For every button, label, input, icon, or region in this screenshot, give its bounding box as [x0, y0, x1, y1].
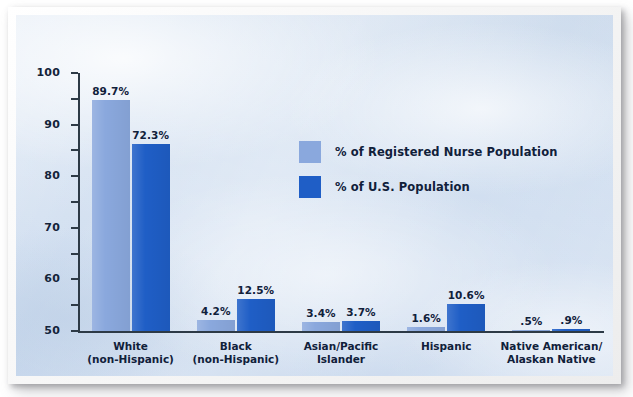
legend-item-us-population: % of U.S. Population — [299, 174, 557, 200]
x-axis-category-label: Asian/PacificIslander — [304, 340, 379, 366]
bar-value-label: 4.2% — [201, 305, 231, 317]
y-axis-tick-label: 80 — [44, 169, 60, 182]
y-axis-tick-label: 50 — [44, 324, 60, 337]
y-axis-tick: 100 — [71, 72, 78, 74]
bar-group: 4.2%12.5%Black(non-Hispanic) — [183, 73, 288, 331]
bar-value-label: 1.6% — [411, 312, 441, 324]
bar-value-label: 72.3% — [132, 129, 169, 141]
y-axis-tick-label: 60 — [44, 272, 60, 285]
x-axis-category-line: Alaskan Native — [501, 353, 603, 366]
chart-canvas: 0102030405060708090100 89.7%72.3%White(n… — [16, 15, 613, 376]
bar-value-label: 12.5% — [237, 284, 274, 296]
legend-item-registered-nurse-population: % of Registered Nurse Population — [299, 139, 557, 165]
y-axis-tick-label: 40 — [44, 375, 60, 376]
bar-group: 89.7%72.3%White(non-Hispanic) — [78, 73, 183, 331]
y-axis-tick: 60 — [71, 175, 78, 177]
x-axis-category-line: Native American/ — [501, 340, 603, 353]
y-axis-tick-label: 100 — [36, 66, 60, 79]
bar-value-label: .9% — [560, 314, 582, 326]
y-axis-tick: 50 — [71, 201, 78, 203]
bar-value-label: 89.7% — [92, 85, 129, 97]
y-axis-tick: 80 — [71, 124, 78, 126]
y-axis-tick: 40 — [71, 227, 78, 229]
y-axis-tick: 70 — [71, 149, 78, 151]
bar-series-0[interactable]: .5% — [512, 330, 550, 331]
x-axis-category-label: White(non-Hispanic) — [87, 340, 174, 366]
y-axis-tick: 30 — [71, 253, 78, 255]
bar-series-0[interactable]: 4.2% — [197, 320, 235, 331]
y-axis-tick: 0 — [71, 330, 78, 332]
chart-legend: % of Registered Nurse Population % of U.… — [299, 139, 557, 209]
bar-value-label: .5% — [520, 315, 542, 327]
x-axis-category-label: Hispanic — [421, 340, 472, 353]
bar-value-label: 3.7% — [346, 306, 376, 318]
x-axis-category-label: Black(non-Hispanic) — [192, 340, 279, 366]
bar-series-1[interactable]: 72.3% — [132, 144, 170, 331]
y-axis-tick: 20 — [71, 278, 78, 280]
bar-series-1[interactable]: 10.6% — [447, 304, 485, 331]
bar-series-1[interactable]: 12.5% — [237, 299, 275, 331]
bar-value-label: 10.6% — [448, 289, 485, 301]
x-axis-category-line: Asian/Pacific — [304, 340, 379, 353]
bar-series-0[interactable]: 1.6% — [407, 327, 445, 331]
chart-frame-inner: 0102030405060708090100 89.7%72.3%White(n… — [16, 15, 613, 376]
x-axis-category-line: (non-Hispanic) — [192, 353, 279, 366]
legend-swatch-icon-series-0 — [299, 141, 321, 163]
x-axis-category-line: Hispanic — [421, 340, 472, 353]
legend-label-series-0: % of Registered Nurse Population — [335, 145, 557, 159]
bar-series-1[interactable]: 3.7% — [342, 321, 380, 331]
y-axis-tick: 90 — [71, 98, 78, 100]
bar-value-label: 3.4% — [306, 307, 336, 319]
x-axis-line — [78, 331, 604, 333]
y-axis-tick: 10 — [71, 304, 78, 306]
bar-series-0[interactable]: 89.7% — [92, 100, 130, 331]
x-axis-category-line: (non-Hispanic) — [87, 353, 174, 366]
x-axis-category-line: Black — [192, 340, 279, 353]
x-axis-category-label: Native American/Alaskan Native — [501, 340, 603, 366]
legend-swatch-icon-series-1 — [299, 176, 321, 198]
y-axis-tick-label: 90 — [44, 117, 60, 130]
x-axis-category-line: White — [87, 340, 174, 353]
x-axis-category-line: Islander — [304, 353, 379, 366]
y-axis-tick-label: 70 — [44, 220, 60, 233]
chart-frame: 0102030405060708090100 89.7%72.3%White(n… — [8, 7, 621, 384]
bar-series-1[interactable]: .9% — [552, 329, 590, 331]
legend-label-series-1: % of U.S. Population — [335, 180, 470, 194]
bar-series-0[interactable]: 3.4% — [302, 322, 340, 331]
